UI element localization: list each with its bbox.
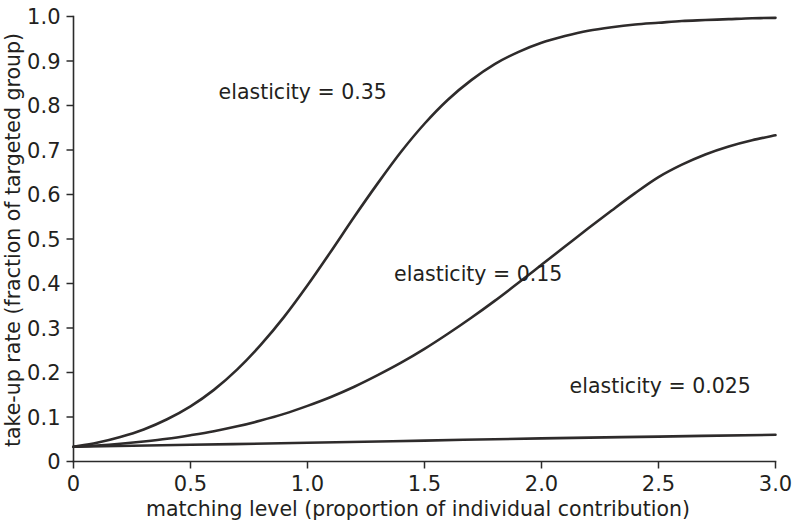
x-axis-title: matching level (proportion of individual… [146,497,690,521]
y-tick-label-8: 0.8 [27,94,60,118]
x-tick-label-5: 2.5 [642,472,675,496]
tick-labels-layer: 00.10.20.30.40.50.60.70.80.91.000.51.01.… [27,5,792,496]
y-tick-label-9: 0.9 [27,50,60,74]
y-tick-label-6: 0.6 [27,183,60,207]
x-tick-label-2: 1.0 [291,472,324,496]
y-tick-label-0: 0 [47,450,60,474]
y-tick-label-1: 0.1 [27,406,60,430]
axis-ticks-layer [67,17,776,469]
y-tick-label-3: 0.3 [27,317,60,341]
x-tick-label-3: 1.5 [408,472,441,496]
x-tick-label-6: 3.0 [759,472,792,496]
chart-figure: 00.10.20.30.40.50.60.70.80.91.000.51.01.… [0,0,795,525]
series-annotation-2: elasticity = 0.025 [570,374,751,398]
x-tick-label-4: 2.0 [525,472,558,496]
y-tick-label-5: 0.5 [27,228,60,252]
series-line-1 [74,135,776,447]
y-axis-title: take-up rate (fraction of targeted group… [1,33,25,447]
y-tick-label-2: 0.2 [27,361,60,385]
series-annotation-1: elasticity = 0.15 [394,262,562,286]
line-chart: 00.10.20.30.40.50.60.70.80.91.000.51.01.… [0,0,795,525]
y-tick-label-4: 0.4 [27,272,60,296]
series-annotations-layer: elasticity = 0.35elasticity = 0.15elasti… [219,80,751,398]
x-tick-label-1: 0.5 [174,472,207,496]
x-tick-label-0: 0 [67,472,80,496]
y-tick-label-10: 1.0 [27,5,60,29]
series-annotation-0: elasticity = 0.35 [219,80,387,104]
y-tick-label-7: 0.7 [27,139,60,163]
